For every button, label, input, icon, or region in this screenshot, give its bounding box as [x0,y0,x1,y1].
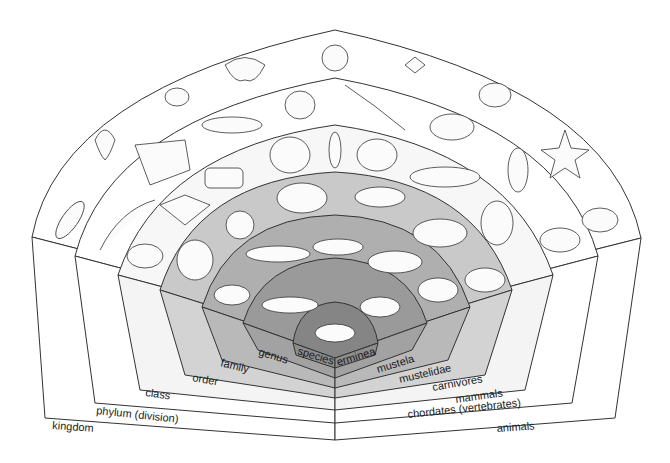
hedgehog-icon [127,244,163,268]
frog-icon [285,91,315,119]
polar-bear-icon [277,183,327,213]
taxonomy-diagram: kingdom phylum (division) class order fa… [0,0,670,463]
fish-icon [202,117,262,133]
dog-icon [177,240,213,280]
elephant-icon [270,137,310,173]
otter-icon [246,246,310,262]
label-animals: animals [496,419,535,434]
cow-icon [205,168,243,188]
ape-icon [357,139,397,171]
tortoise-icon [430,114,474,140]
stoat-phylum-icon [582,208,618,232]
bird-icon [508,148,528,192]
mink-icon [262,297,318,313]
seal-icon [355,187,405,207]
cat-icon [226,211,254,239]
jellyfish-icon [165,88,189,106]
snail-icon [322,45,348,71]
badger-icon [214,285,250,305]
whale-icon [410,167,480,187]
stoat-species-icon [315,324,355,342]
stoat-class-icon [540,228,580,252]
wolverine-icon [368,251,422,273]
diagram-canvas: kingdom phylum (division) class order fa… [0,0,670,463]
human-icon [329,132,341,168]
stoat-order-icon [465,268,505,292]
stoat-family-icon [418,278,458,302]
stoat-genus-icon [360,297,400,317]
hyena-icon [413,219,467,247]
weasel-icon [313,239,363,255]
wolf-icon [481,201,513,245]
label-kingdom: kingdom [52,419,94,434]
beetle-icon [479,83,511,107]
